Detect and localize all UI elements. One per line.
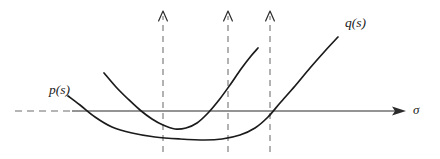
curve-label-q: q(s) <box>345 16 366 30</box>
curve-q-of-s <box>104 48 258 129</box>
figure-container: p(s) q(s) σ <box>0 0 440 159</box>
plot-canvas <box>0 0 440 159</box>
axis-label-sigma: σ <box>413 103 419 116</box>
curve-label-p: p(s) <box>49 83 70 97</box>
curve-p-of-s <box>68 37 338 140</box>
